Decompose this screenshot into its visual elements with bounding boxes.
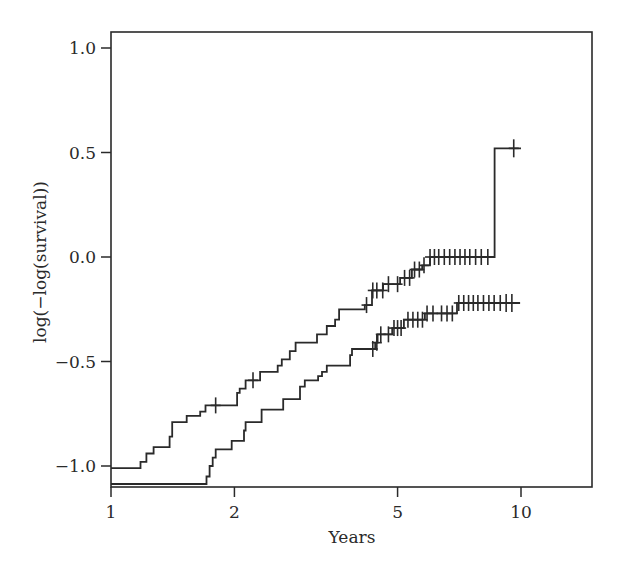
plot-area <box>111 139 521 484</box>
y-axis: 1.00.50.0−0.5−1.0 <box>55 38 111 476</box>
y-tick-label: −0.5 <box>55 352 96 372</box>
x-tick-label: 5 <box>392 502 403 522</box>
plot-frame <box>111 32 592 487</box>
survival-chart: 1.00.50.0−0.5−1.0 12510 Years log(−log(s… <box>0 0 624 572</box>
y-tick-label: 1.0 <box>69 38 96 58</box>
y-tick-label: −1.0 <box>55 456 96 476</box>
x-tick-label: 1 <box>106 502 117 522</box>
y-tick-label: 0.0 <box>69 247 96 267</box>
x-tick-label: 10 <box>510 502 532 522</box>
y-axis-title: log(−log(survival)) <box>30 181 50 343</box>
x-axis: 12510 <box>106 487 532 522</box>
y-tick-label: 0.5 <box>69 143 96 163</box>
x-axis-title: Years <box>328 527 376 547</box>
series-lower-curve <box>111 294 520 484</box>
step-line <box>111 303 520 484</box>
x-tick-label: 2 <box>229 502 240 522</box>
